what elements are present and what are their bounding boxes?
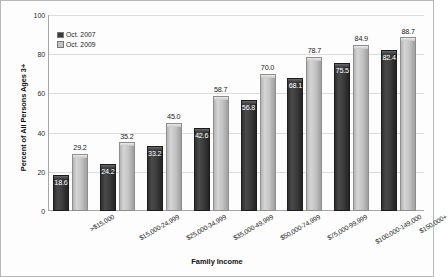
bar-highlight (307, 58, 321, 61)
bar (353, 45, 369, 211)
x-tick-label: $150,000+ (418, 213, 448, 234)
bar-group: 68.178.7 (283, 15, 330, 211)
y-tick-label: 40 (5, 129, 45, 136)
x-axis-title: Family Income (1, 257, 433, 266)
y-tick-label: 20 (5, 168, 45, 175)
x-axis: >$15,000$15,000-24,999$25,000-34,999$35,… (49, 213, 424, 261)
bar (194, 128, 210, 211)
bar-highlight (120, 143, 134, 146)
legend-label: Oct. 2007 (66, 30, 95, 40)
data-label: 88.7 (390, 27, 426, 36)
bar-group: 42.658.7 (190, 15, 237, 211)
bar-highlight (73, 155, 87, 158)
data-label: 70.0 (250, 63, 286, 72)
bar (381, 50, 397, 212)
bar (72, 154, 88, 211)
bar (260, 74, 276, 211)
legend-swatch-icon (57, 32, 64, 39)
data-label: 84.9 (343, 34, 379, 43)
legend-swatch-icon (57, 41, 64, 48)
x-tick-label: $25,000-34,999 (185, 213, 227, 241)
legend-item: Oct. 2009 (57, 40, 95, 50)
bars-layer: 18.629.224.235.233.245.042.658.756.870.0… (49, 15, 424, 211)
data-label: 78.7 (296, 46, 332, 55)
x-tick-label: $100,000-149,000 (374, 213, 422, 245)
bar (241, 100, 257, 211)
legend-item: Oct. 2007 (57, 30, 95, 40)
y-tick-label: 0 (5, 208, 45, 215)
data-label: 58.7 (203, 85, 239, 94)
legend: Oct. 2007Oct. 2009 (57, 30, 95, 49)
bar (400, 37, 416, 211)
data-label: 35.2 (109, 132, 145, 141)
y-tick-label: 80 (5, 51, 45, 58)
bar-group: 33.245.0 (143, 15, 190, 211)
data-label: 29.2 (62, 143, 98, 152)
bar-highlight (354, 46, 368, 49)
x-tick-label: $35,000-49,999 (232, 213, 274, 241)
y-tick-label: 100 (5, 12, 45, 19)
bar-highlight (261, 75, 275, 78)
y-axis: 020406080100 (1, 15, 45, 211)
x-tick-label: >$15,000 (89, 213, 116, 233)
bar-group: 82.488.7 (377, 15, 424, 211)
bar-highlight (401, 38, 415, 41)
x-tick-label: $75,000-99,999 (326, 213, 368, 241)
bar-highlight (214, 97, 228, 100)
bar (334, 63, 350, 211)
bar (166, 123, 182, 211)
bar (287, 78, 303, 211)
bar-highlight (167, 124, 181, 127)
bar-group: 56.870.0 (237, 15, 284, 211)
y-tick-label: 60 (5, 90, 45, 97)
x-tick-label: $50,000-74,999 (279, 213, 321, 241)
bar (213, 96, 229, 211)
x-tick-label: $15,000-24,999 (138, 213, 180, 241)
legend-label: Oct. 2009 (66, 40, 95, 50)
data-label: 45.0 (156, 112, 192, 121)
bar (119, 142, 135, 211)
bar-group: 24.235.2 (96, 15, 143, 211)
bar (306, 57, 322, 211)
bar-group: 75.584.9 (330, 15, 377, 211)
